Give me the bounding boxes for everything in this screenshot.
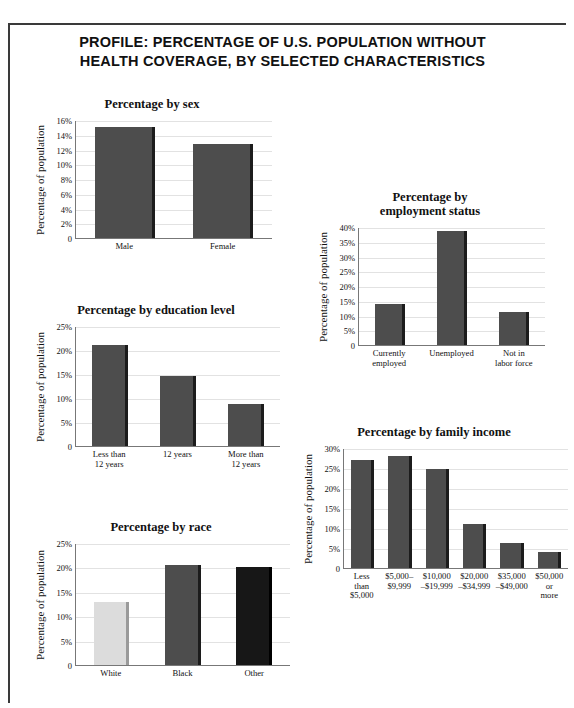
chart-title-line: Percentage by sex	[32, 97, 272, 111]
y-axis-tick-label: 10%	[324, 524, 340, 534]
x-axis-tick-label: $50,000ormore	[531, 572, 569, 616]
bar-slot	[456, 449, 493, 568]
bar-slot	[381, 449, 418, 568]
y-axis-label-text: Percentage of population	[302, 454, 314, 564]
x-axis-tick-label-line: Other	[218, 669, 290, 679]
x-axis-tick-label-line: 12 years	[143, 450, 211, 460]
x-axis-tick-label: Male	[75, 242, 174, 276]
plot-area: Percentage of population05%10%15%20%25%	[32, 327, 280, 447]
x-axis-labels: MaleFemale	[75, 242, 272, 276]
y-axis-tick-label: 2%	[61, 219, 72, 229]
y-axis-tick-label: 6%	[61, 190, 72, 200]
x-axis-labels: WhiteBlackOther	[75, 669, 290, 699]
x-axis-tick-label: Black	[147, 669, 219, 699]
bar	[426, 469, 449, 568]
chart-title-line: Percentage by family income	[300, 425, 568, 439]
bar-slot	[531, 449, 568, 568]
bar	[193, 144, 254, 238]
y-axis-ticks: 05%10%15%20%25%	[47, 327, 75, 447]
y-axis-label: Percentage of population	[32, 544, 47, 666]
bar-slot	[212, 327, 280, 446]
x-axis-tick-label-line: Female	[174, 242, 273, 252]
chart-title: Percentage by family income	[300, 425, 568, 445]
x-axis-labels: Less than12 years12 yearsMore than12 yea…	[75, 450, 280, 482]
plot-area: Percentage of population05%10%15%20%25%3…	[300, 449, 568, 569]
bar	[92, 345, 129, 446]
y-axis-label-text: Percentage of population	[317, 232, 329, 342]
plot-box	[75, 327, 280, 447]
y-axis-ticks: 05%10%15%20%25%30%35%40%	[330, 228, 358, 346]
x-axis-tick-label: $10,000–$19,999	[418, 572, 456, 616]
chart-title-line: Percentage by education level	[32, 303, 280, 317]
bar	[463, 524, 486, 568]
x-axis-tick-label: $35,000–$49,000	[493, 572, 531, 616]
y-axis-tick-label: 12%	[56, 146, 72, 156]
x-axis-tick-label-line: Male	[75, 242, 174, 252]
x-axis-tick-label-line: $9,999	[381, 582, 419, 592]
y-axis-tick-label: 10%	[56, 394, 72, 404]
plot-box	[75, 544, 290, 666]
bar-series	[76, 327, 280, 446]
x-axis-tick-label: 12 years	[143, 450, 211, 482]
x-axis-tick-label: Female	[174, 242, 273, 276]
y-axis-tick-label: 10%	[56, 160, 72, 170]
y-axis-label: Percentage of population	[300, 449, 315, 569]
y-axis-tick-label: 15%	[339, 297, 355, 307]
x-axis-tick-label-line: –$19,999	[418, 582, 456, 592]
plot-area: Percentage of population02%4%6%8%10%12%1…	[32, 121, 272, 239]
bar	[165, 565, 201, 665]
bar	[95, 127, 156, 238]
bar	[351, 460, 374, 568]
y-axis-tick-label: 20%	[324, 484, 340, 494]
chart-title: Percentage byemployment status	[315, 190, 545, 224]
x-axis-tick-label-line: labor force	[483, 359, 545, 369]
chart-percentage-by-education-level: Percentage by education levelPercentage …	[32, 303, 280, 488]
chart-title: Percentage by race	[32, 520, 290, 540]
bar-slot	[76, 544, 147, 665]
bar-series	[76, 544, 290, 665]
chart-percentage-by-family-income: Percentage by family incomePercentage of…	[300, 425, 568, 625]
x-axis-tick-label: Other	[218, 669, 290, 699]
chart-percentage-by-employment-status: Percentage byemployment statusPercentage…	[315, 190, 545, 390]
y-axis-tick-label: 35%	[339, 238, 355, 248]
y-axis-tick-label: 25%	[324, 464, 340, 474]
x-axis-tick-label-line: $5,000	[343, 591, 381, 601]
x-axis-tick-label: Less than12 years	[75, 450, 143, 482]
y-axis-tick-label: 20%	[56, 346, 72, 356]
y-axis-tick-label: 5%	[329, 544, 340, 554]
y-axis-tick-label: 5%	[344, 326, 355, 336]
bar	[228, 404, 265, 446]
y-axis-tick-label: 0	[68, 234, 72, 244]
x-axis-labels: Lessthan$5,000$5,000–$9,999$10,000–$19,9…	[343, 572, 568, 616]
bar-slot	[359, 228, 421, 345]
bar-slot	[174, 121, 272, 238]
x-axis-tick-label: White	[75, 669, 147, 699]
plot-box	[343, 449, 568, 569]
y-axis-tick-label: 20%	[339, 282, 355, 292]
bar	[160, 376, 197, 446]
bar-slot	[483, 228, 545, 345]
y-axis-tick-label: 0	[351, 341, 355, 351]
y-axis-tick-label: 25%	[56, 539, 72, 549]
x-axis-tick-label-line: Unemployed	[420, 349, 482, 359]
plot-area: Percentage of population05%10%15%20%25%	[32, 544, 290, 666]
bar	[500, 543, 523, 568]
bar	[437, 231, 467, 345]
page-title-line-1: PROFILE: PERCENTAGE OF U.S. POPULATION W…	[10, 33, 555, 52]
y-axis-tick-label: 0	[68, 661, 72, 671]
bar	[538, 552, 561, 568]
y-axis-tick-label: 10%	[56, 612, 72, 622]
chart-title-line: Percentage by race	[32, 520, 290, 534]
bar-slot	[76, 327, 144, 446]
y-axis-label: Percentage of population	[32, 121, 47, 239]
y-axis-tick-label: 14%	[56, 131, 72, 141]
plot-area: Percentage of population05%10%15%20%25%3…	[315, 228, 545, 346]
y-axis-label-text: Percentage of population	[34, 332, 46, 442]
y-axis-tick-label: 20%	[56, 563, 72, 573]
x-axis-tick-label-line: –$34,999	[456, 582, 494, 592]
x-axis-labels: CurrentlyemployedUnemployedNot inlabor f…	[358, 349, 545, 379]
x-axis-tick-label: Not inlabor force	[483, 349, 545, 379]
plot-box	[75, 121, 272, 239]
x-axis-tick-label-line: White	[75, 669, 147, 679]
y-axis-label: Percentage of population	[315, 228, 330, 346]
